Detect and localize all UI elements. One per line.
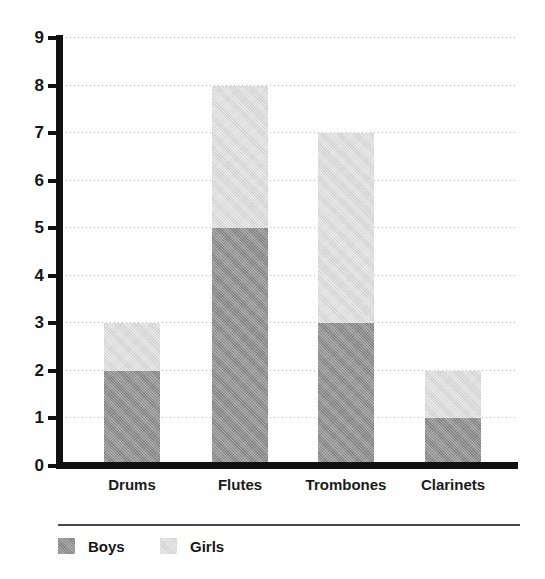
y-tick-label: 2: [20, 362, 44, 379]
bar-drums: [104, 323, 160, 466]
gridline: [62, 85, 518, 86]
bar-trombones: [318, 133, 374, 466]
legend-swatch-girls: [160, 538, 177, 554]
bar-segment-flutes-girls: [212, 86, 268, 229]
legend-item-girls[interactable]: Girls: [160, 536, 224, 556]
gridline: [62, 227, 518, 228]
y-tick-label: 4: [20, 267, 44, 284]
y-tick-label: 3: [20, 314, 44, 331]
bar-segment-drums-boys: [104, 371, 160, 466]
bar-segment-trombones-girls: [318, 133, 374, 323]
bar-segment-drums-girls: [104, 323, 160, 371]
gridline: [62, 37, 518, 38]
gridline: [62, 132, 518, 133]
x-axis-label-flutes: Flutes: [180, 477, 300, 492]
y-tick-label: 6: [20, 172, 44, 189]
bar-segment-trombones-boys: [318, 323, 374, 466]
bar-segment-flutes-boys: [212, 228, 268, 466]
legend-label-boys: Boys: [88, 539, 125, 554]
x-axis-label-clarinets: Clarinets: [393, 477, 513, 492]
y-tick-label: 5: [20, 219, 44, 236]
y-tick-mark: [48, 274, 57, 278]
x-axis-line: [56, 462, 518, 469]
y-tick-label: 9: [20, 29, 44, 46]
y-tick-label: 8: [20, 77, 44, 94]
y-tick-mark: [48, 36, 57, 40]
y-tick-mark: [48, 369, 57, 373]
legend-item-boys[interactable]: Boys: [58, 536, 125, 556]
plot-area: [62, 38, 518, 466]
y-tick-label: 1: [20, 409, 44, 426]
bar-clarinets: [425, 371, 481, 466]
legend-swatch-boys: [58, 538, 75, 554]
x-axis-label-trombones: Trombones: [286, 477, 406, 492]
y-axis-line: [56, 35, 63, 469]
y-tick-label: 7: [20, 124, 44, 141]
y-tick-mark: [48, 464, 57, 468]
y-tick-mark: [48, 131, 57, 135]
y-tick-mark: [48, 226, 57, 230]
x-axis-label-drums: Drums: [72, 477, 192, 492]
gridline: [62, 180, 518, 181]
y-tick-mark: [48, 84, 57, 88]
legend-divider: [58, 524, 520, 526]
legend-label-girls: Girls: [190, 539, 224, 554]
y-tick-mark: [48, 179, 57, 183]
bar-segment-clarinets-boys: [425, 418, 481, 466]
y-tick-mark: [48, 321, 57, 325]
y-tick-label: 0: [20, 457, 44, 474]
bar-segment-clarinets-girls: [425, 371, 481, 419]
y-tick-mark: [48, 416, 57, 420]
stacked-bar-chart: 0123456789 DrumsFlutesTrombonesClarinets…: [0, 0, 545, 579]
gridline: [62, 275, 518, 276]
bar-flutes: [212, 86, 268, 466]
